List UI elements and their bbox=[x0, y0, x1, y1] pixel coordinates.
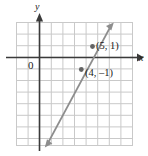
data-point-4-neg1 bbox=[79, 67, 84, 72]
origin-label: 0 bbox=[28, 60, 34, 71]
x-axis-label: x bbox=[139, 53, 143, 63]
data-point-5-1 bbox=[90, 44, 95, 49]
point-label-4-neg1: (4, –1) bbox=[85, 68, 113, 79]
y-axis-arrowhead-icon bbox=[36, 13, 43, 22]
y-axis-label: y bbox=[35, 2, 39, 12]
graph-figure: y x 0 (5, 1) (4, –1) bbox=[0, 0, 148, 156]
point-label-5-1: (5, 1) bbox=[96, 41, 119, 52]
coordinate-plane bbox=[0, 0, 148, 156]
